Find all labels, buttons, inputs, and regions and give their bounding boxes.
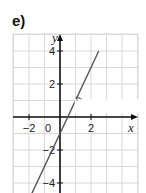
y-tick-label: 2 <box>49 78 55 90</box>
y-tick-label: −2 <box>42 144 55 156</box>
x-tick-label: 2 <box>88 122 94 134</box>
x-axis-label: x <box>127 120 134 135</box>
y-tick-label: 4 <box>49 45 55 57</box>
function-graph: −20242−2−4yxf(x) = 2x − 1 <box>0 0 146 193</box>
y-axis-label: y <box>50 30 58 45</box>
grid-lines <box>13 34 138 193</box>
y-axis-arrow-icon <box>57 34 63 41</box>
y-tick-label: −4 <box>42 177 55 189</box>
x-tick-label: 0 <box>45 122 51 134</box>
x-tick-label: −2 <box>23 122 36 134</box>
function-label-bg <box>75 99 145 113</box>
